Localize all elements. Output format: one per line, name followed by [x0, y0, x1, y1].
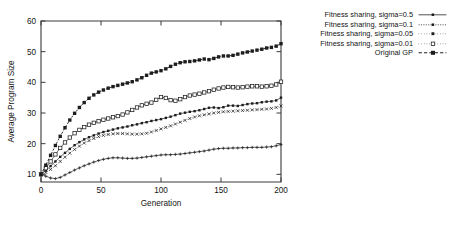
- data-point: [251, 49, 254, 52]
- data-point: [102, 134, 105, 137]
- data-point: [49, 154, 52, 157]
- data-point: [265, 46, 268, 49]
- legend-item[interactable]: Original GP: [298, 48, 448, 58]
- data-point: [150, 131, 153, 134]
- legend-label: Fitness sharing, sigma=0.01: [320, 39, 413, 49]
- legend-key-sigma-0-01: [417, 39, 448, 49]
- data-point: [116, 84, 119, 87]
- data-point: [265, 85, 268, 88]
- data-point: [193, 115, 196, 118]
- data-point: [68, 152, 71, 155]
- data-point: [179, 98, 182, 101]
- data-point: [126, 125, 128, 127]
- data-point: [174, 114, 176, 116]
- data-point: [121, 82, 124, 85]
- data-point: [217, 87, 220, 90]
- data-point: [217, 55, 220, 58]
- data-point: [255, 48, 258, 51]
- legend-item[interactable]: Fitness sharing, sigma=0.01: [298, 39, 448, 49]
- data-point: [117, 127, 119, 129]
- data-point: [160, 118, 162, 120]
- data-point: [59, 146, 62, 149]
- data-point: [184, 119, 187, 122]
- data-point: [198, 109, 200, 111]
- data-point: [140, 104, 143, 107]
- data-point: [140, 156, 143, 159]
- data-point: [212, 148, 215, 151]
- x-tick-label: 0: [39, 186, 44, 195]
- legend-item[interactable]: Fitness sharing, sigma=0.05: [298, 29, 448, 39]
- data-point: [160, 127, 163, 130]
- legend-key-sigma-0-1: [417, 20, 448, 30]
- data-point: [145, 102, 148, 105]
- data-point: [54, 153, 57, 156]
- data-point: [188, 151, 191, 154]
- data-point: [227, 110, 230, 113]
- data-point: [131, 157, 134, 160]
- data-point: [236, 146, 239, 149]
- data-point: [111, 156, 114, 159]
- data-point: [126, 111, 129, 114]
- data-point: [270, 107, 273, 110]
- data-point: [135, 156, 138, 159]
- data-point: [54, 144, 57, 147]
- data-point: [241, 109, 244, 112]
- data-point: [150, 101, 153, 104]
- data-point: [63, 126, 66, 129]
- y-tick-label: 30: [27, 109, 37, 118]
- legend-item[interactable]: Fitness sharing, sigma=0.5: [298, 10, 448, 20]
- x-axis-title: Generation: [141, 199, 182, 208]
- data-point: [150, 155, 153, 158]
- data-point: [131, 124, 133, 126]
- data-point: [83, 142, 86, 145]
- legend-label: Fitness sharing, sigma=0.5: [324, 10, 413, 20]
- legend-label: Fitness sharing, sigma=0.1: [324, 20, 413, 30]
- series-2: [40, 96, 282, 175]
- data-point: [198, 58, 201, 61]
- data-point: [275, 83, 278, 86]
- data-point: [159, 69, 162, 72]
- data-point: [179, 61, 182, 64]
- data-point: [265, 100, 267, 102]
- data-point: [198, 92, 201, 95]
- data-point: [217, 107, 219, 109]
- data-point: [136, 133, 139, 136]
- data-point: [159, 95, 162, 98]
- data-point: [165, 117, 167, 119]
- data-point: [107, 130, 109, 132]
- data-point: [174, 63, 177, 66]
- data-point: [203, 57, 206, 60]
- data-point: [256, 102, 258, 104]
- y-tick-label: 40: [27, 78, 37, 87]
- data-point: [179, 152, 182, 155]
- data-point: [169, 98, 172, 101]
- data-point: [140, 76, 143, 79]
- data-point: [140, 132, 143, 135]
- data-point: [231, 146, 234, 149]
- data-point: [73, 112, 76, 115]
- data-point: [78, 166, 81, 169]
- y-tick-label: 20: [27, 140, 37, 149]
- data-point: [179, 112, 181, 114]
- data-point: [217, 111, 220, 114]
- data-point: [280, 96, 282, 98]
- data-point: [73, 144, 75, 146]
- series-3: [39, 80, 282, 176]
- legend-item[interactable]: Fitness sharing, sigma=0.1: [298, 20, 448, 30]
- data-point: [92, 137, 95, 140]
- data-point: [49, 165, 51, 167]
- data-point: [188, 94, 191, 97]
- data-point: [246, 109, 249, 112]
- data-point: [227, 147, 230, 150]
- data-point: [155, 98, 158, 101]
- data-point: [193, 110, 195, 112]
- data-point: [227, 54, 230, 57]
- data-point: [246, 146, 249, 149]
- series-line: [41, 106, 281, 174]
- data-point: [203, 108, 205, 110]
- data-point: [241, 104, 243, 106]
- data-point: [87, 162, 90, 165]
- data-point: [174, 153, 177, 156]
- data-point: [83, 138, 85, 140]
- data-point: [174, 99, 177, 102]
